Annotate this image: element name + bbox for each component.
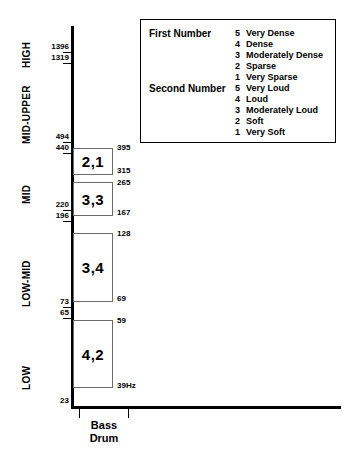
category-label-line1: Bass: [66, 419, 142, 432]
legend-item: 3 Moderately Dense: [235, 50, 323, 61]
band-label-low-mid: LOW-MID: [21, 260, 32, 307]
x-axis-tick-left: [79, 409, 80, 418]
range-box-4-2[interactable]: 4,2: [73, 320, 113, 388]
legend-item-value: 5: [235, 28, 246, 39]
band-label-mid-upper: MID-UPPER: [21, 85, 32, 144]
legend-item-label: Dense: [246, 39, 323, 50]
legend-item-value: 4: [235, 39, 246, 50]
range-box-2-1-bottom-hz: 315: [117, 166, 130, 175]
freq-tick-220: 220: [36, 200, 69, 209]
range-box-2-1-top-hz: 395: [117, 143, 130, 152]
tick-mark-65: [63, 318, 71, 319]
freq-tick-73: 73: [36, 297, 69, 306]
legend-item-label: Very Loud: [246, 83, 318, 94]
band-label-low: LOW: [21, 366, 32, 390]
legend-item: 2 Sparse: [235, 61, 323, 72]
freq-tick-23: 23: [36, 396, 69, 405]
legend-group-title: Second Number: [149, 83, 235, 94]
band-label-high: HIGH: [21, 42, 32, 68]
range-box-2-1[interactable]: 2,1: [73, 148, 113, 175]
range-box-code: 4,2: [82, 346, 104, 363]
freq-tick-494: 494: [36, 132, 69, 141]
frequency-range-chart: HIGH MID-UPPER MID LOW-MID LOW 1396 1319…: [0, 0, 353, 451]
range-box-3-4-top-hz: 128: [117, 229, 130, 238]
legend-item-value: 2: [235, 116, 246, 127]
category-label-bass-drum: Bass Drum: [66, 419, 142, 445]
tick-mark-1319: [63, 63, 71, 64]
legend-item-value: 4: [235, 94, 246, 105]
range-box-4-2-top-hz: 59: [117, 316, 126, 325]
freq-tick-65: 65: [36, 308, 69, 317]
legend-item-label: Loud: [246, 94, 318, 105]
legend-item: 3 Moderately Loud: [235, 105, 318, 116]
freq-tick-440: 440: [36, 143, 69, 152]
legend-entry-list: 5 Very Loud 4 Loud 3 Moderately Loud 2 S…: [235, 83, 318, 138]
legend-item-value: 1: [235, 127, 246, 138]
freq-tick-196: 196: [36, 211, 69, 220]
legend-item-label: Very Sparse: [246, 72, 323, 83]
freq-tick-1319: 1319: [36, 53, 69, 62]
legend: First Number 5 Very Dense 4 Dense 3 Mode…: [140, 19, 336, 143]
tick-mark-196: [63, 221, 71, 222]
range-box-code: 3,3: [82, 191, 104, 208]
legend-item-label: Very Dense: [246, 28, 323, 39]
legend-item-label: Very Soft: [246, 127, 318, 138]
range-box-4-2-bottom-hz: 39Hz: [117, 381, 136, 390]
legend-item: 2 Soft: [235, 116, 318, 127]
legend-item: 4 Loud: [235, 94, 318, 105]
legend-entry-list: 5 Very Dense 4 Dense 3 Moderately Dense …: [235, 28, 323, 83]
x-axis-line: [71, 406, 341, 409]
legend-group-second-number: Second Number 5 Very Loud 4 Loud 3 Moder…: [149, 83, 318, 138]
range-box-3-4-bottom-hz: 69: [117, 294, 126, 303]
range-box-3-3-bottom-hz: 167: [117, 208, 130, 217]
range-box-3-4[interactable]: 3,4: [73, 233, 113, 302]
legend-item-label: Moderately Dense: [246, 50, 323, 61]
legend-item: 1 Very Soft: [235, 127, 318, 138]
legend-item-value: 5: [235, 83, 246, 94]
legend-item-value: 3: [235, 50, 246, 61]
range-box-3-3-top-hz: 265: [117, 178, 130, 187]
x-axis-tick-right: [128, 409, 129, 418]
legend-item-value: 1: [235, 72, 246, 83]
range-box-code: 3,4: [82, 259, 104, 276]
band-label-mid: MID: [21, 185, 32, 204]
legend-item-label: Sparse: [246, 61, 323, 72]
legend-item: 1 Very Sparse: [235, 72, 323, 83]
legend-item: 4 Dense: [235, 39, 323, 50]
tick-mark-440: [63, 153, 71, 154]
freq-tick-1396: 1396: [36, 42, 69, 51]
legend-item: 5 Very Dense: [235, 28, 323, 39]
range-box-code: 2,1: [82, 153, 104, 170]
legend-group-title: First Number: [149, 28, 235, 39]
legend-item-label: Soft: [246, 116, 318, 127]
category-label-line2: Drum: [66, 432, 142, 445]
legend-item-value: 3: [235, 105, 246, 116]
range-box-3-3[interactable]: 3,3: [73, 182, 113, 216]
legend-group-first-number: First Number 5 Very Dense 4 Dense 3 Mode…: [149, 28, 323, 83]
legend-item-label: Moderately Loud: [246, 105, 318, 116]
legend-item: 5 Very Loud: [235, 83, 318, 94]
legend-item-value: 2: [235, 61, 246, 72]
